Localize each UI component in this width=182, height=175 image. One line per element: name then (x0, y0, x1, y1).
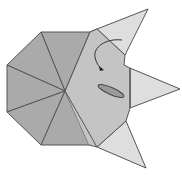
diagram-canvas (0, 0, 182, 175)
right-flap (130, 68, 180, 108)
fold-net-diagram (0, 0, 182, 175)
